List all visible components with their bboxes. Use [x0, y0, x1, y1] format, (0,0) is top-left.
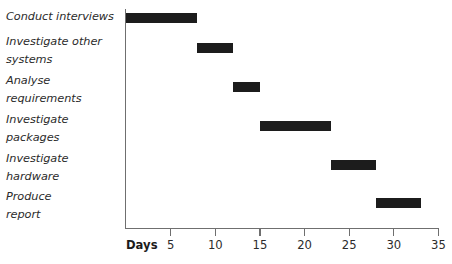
- gantt-chart: Conduct interviews Investigate other sys…: [0, 0, 452, 264]
- gantt-bar: [233, 82, 260, 92]
- gantt-bar: [260, 121, 331, 131]
- x-tick-label-20: 20: [297, 238, 312, 252]
- x-tick-10: [215, 228, 216, 236]
- x-axis-line: [125, 228, 439, 229]
- x-tick-label-25: 25: [342, 238, 357, 252]
- plot-area: 5101520253035 Days: [0, 0, 452, 264]
- gantt-bar: [126, 13, 197, 23]
- gantt-bar: [331, 160, 376, 170]
- x-tick-label-10: 10: [208, 238, 223, 252]
- gantt-bar: [376, 198, 421, 208]
- x-tick-35: [438, 228, 439, 236]
- x-tick-20: [304, 228, 305, 236]
- x-tick-30: [393, 228, 394, 236]
- x-tick-5: [170, 228, 171, 236]
- y-axis-line: [125, 9, 126, 229]
- x-axis-title: Days: [126, 238, 158, 252]
- x-tick-25: [349, 228, 350, 236]
- x-tick-label-35: 35: [431, 238, 446, 252]
- x-tick-label-30: 30: [386, 238, 401, 252]
- gantt-bar: [197, 43, 233, 53]
- x-tick-label-15: 15: [253, 238, 268, 252]
- x-tick-15: [259, 228, 260, 236]
- x-tick-label-5: 5: [167, 238, 174, 252]
